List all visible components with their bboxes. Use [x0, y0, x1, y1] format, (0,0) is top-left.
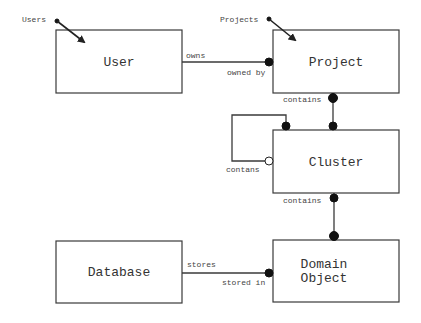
relationship-user-project[interactable]: owns owned by — [182, 51, 273, 77]
owned-by-label: owned by — [227, 68, 266, 77]
cluster-self-many-dot — [282, 122, 290, 130]
relationship-cluster-domain-object[interactable]: contains — [283, 193, 339, 241]
users-pointer-label: Users — [22, 15, 46, 24]
project-contains-dot — [329, 94, 338, 103]
projects-pointer-label: Projects — [220, 15, 259, 24]
entity-database[interactable]: Database — [56, 241, 182, 303]
cluster-self-optional-circle — [265, 157, 273, 165]
owned-by-many-dot — [265, 58, 273, 66]
stored-in-label: stored in — [222, 278, 265, 287]
cluster-contained-dot — [329, 122, 337, 130]
cluster-self-contans-label: contans — [226, 165, 260, 174]
entity-cluster[interactable]: Cluster — [273, 130, 399, 193]
project-label: Project — [309, 55, 364, 70]
domain-object-label-line1: Domain — [301, 257, 348, 272]
er-diagram: User Project Cluster Database Domain Obj… — [0, 0, 421, 323]
domain-object-contained-dot — [330, 232, 339, 241]
cluster-label: Cluster — [309, 155, 364, 170]
entity-user[interactable]: User — [56, 30, 182, 93]
stores-label: stores — [187, 260, 216, 269]
entity-project[interactable]: Project — [273, 30, 399, 93]
cluster-contains-dot — [330, 194, 338, 202]
owns-label: owns — [186, 51, 205, 60]
project-contains-label: contains — [283, 95, 322, 104]
relationship-project-cluster[interactable]: contains — [283, 93, 338, 130]
cluster-contains-label: contains — [283, 196, 322, 205]
user-label: User — [103, 55, 134, 70]
entity-domain-object[interactable]: Domain Object — [273, 240, 399, 302]
stored-in-many-dot — [265, 269, 273, 277]
domain-object-label-line2: Object — [301, 271, 348, 286]
database-label: Database — [88, 265, 150, 280]
relationship-database-domain-object[interactable]: stores stored in — [182, 260, 273, 287]
